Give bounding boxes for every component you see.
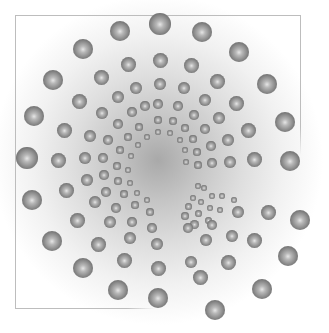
sphere — [206, 141, 216, 151]
sphere — [42, 231, 62, 251]
sphere — [189, 110, 199, 120]
sphere — [149, 13, 171, 35]
sphere — [232, 206, 244, 218]
sphere — [16, 147, 38, 169]
sphere — [151, 238, 163, 250]
sphere — [193, 270, 208, 285]
sphere — [101, 187, 111, 197]
sphere — [154, 78, 166, 90]
sphere — [151, 261, 166, 276]
sphere — [200, 234, 212, 246]
sphere — [124, 232, 136, 244]
sphere — [111, 203, 121, 213]
sphere — [169, 117, 177, 125]
sphere — [177, 137, 183, 143]
sphere — [59, 183, 74, 198]
sphere — [183, 159, 189, 165]
sphere — [181, 124, 189, 132]
sphere — [57, 123, 72, 138]
sphere — [113, 162, 121, 170]
frame-bottom-edge — [15, 308, 155, 309]
sphere — [84, 130, 96, 142]
sphere — [199, 94, 211, 106]
radial-gradient-background — [0, 0, 329, 333]
sphere — [131, 201, 139, 209]
sphere — [182, 147, 188, 153]
sphere — [153, 53, 168, 68]
sphere — [226, 230, 238, 242]
sphere — [124, 133, 132, 141]
sphere — [144, 134, 150, 140]
sphere — [51, 153, 66, 168]
sphere — [241, 123, 256, 138]
sphere — [127, 107, 137, 117]
sphere — [229, 96, 244, 111]
sphere — [252, 279, 272, 299]
sphere — [185, 256, 197, 268]
sphere — [195, 210, 202, 217]
sphere — [178, 82, 190, 94]
sphere — [207, 220, 217, 230]
sphere — [81, 174, 93, 186]
sphere — [181, 212, 189, 220]
sphere — [113, 119, 123, 129]
sphere — [130, 82, 142, 94]
sphere — [147, 223, 157, 233]
sphere — [200, 124, 210, 134]
spiral-sphere-artwork — [0, 0, 329, 333]
sphere — [112, 91, 124, 103]
frame-right-edge — [300, 15, 301, 155]
sphere — [135, 142, 141, 148]
sphere — [73, 258, 93, 278]
sphere — [278, 246, 298, 266]
sphere — [221, 255, 236, 270]
sphere — [89, 196, 101, 208]
sphere — [146, 208, 154, 216]
sphere — [275, 112, 295, 132]
sphere — [247, 152, 262, 167]
sphere — [148, 288, 168, 308]
sphere — [79, 152, 91, 164]
sphere — [117, 253, 132, 268]
sphere — [173, 101, 183, 111]
sphere — [153, 99, 163, 109]
sphere — [155, 129, 161, 135]
sphere — [134, 190, 140, 196]
sphere — [189, 135, 197, 143]
sphere — [185, 203, 192, 210]
sphere — [73, 39, 93, 59]
sphere — [43, 70, 63, 90]
sphere — [110, 21, 130, 41]
sphere — [140, 101, 150, 111]
sphere — [290, 210, 310, 230]
sphere — [72, 94, 87, 109]
sphere — [127, 180, 133, 186]
sphere — [167, 130, 173, 136]
sphere — [183, 223, 193, 233]
sphere — [70, 213, 85, 228]
sphere — [128, 153, 134, 159]
sphere — [125, 167, 131, 173]
sphere — [96, 107, 108, 119]
sphere — [184, 58, 199, 73]
sphere — [135, 123, 143, 131]
sphere — [213, 112, 225, 124]
sphere — [120, 190, 128, 198]
sphere — [193, 148, 201, 156]
sphere — [104, 216, 116, 228]
sphere — [108, 280, 128, 300]
sphere — [261, 205, 276, 220]
sphere — [207, 158, 217, 168]
sphere — [91, 237, 106, 252]
sphere — [22, 190, 42, 210]
sphere — [114, 177, 122, 185]
sphere — [257, 74, 277, 94]
sphere — [24, 106, 44, 126]
sphere — [116, 146, 124, 154]
sphere — [229, 42, 249, 62]
sphere — [247, 233, 262, 248]
sphere — [154, 116, 162, 124]
sphere — [205, 300, 225, 320]
sphere — [94, 70, 109, 85]
sphere — [127, 217, 137, 227]
